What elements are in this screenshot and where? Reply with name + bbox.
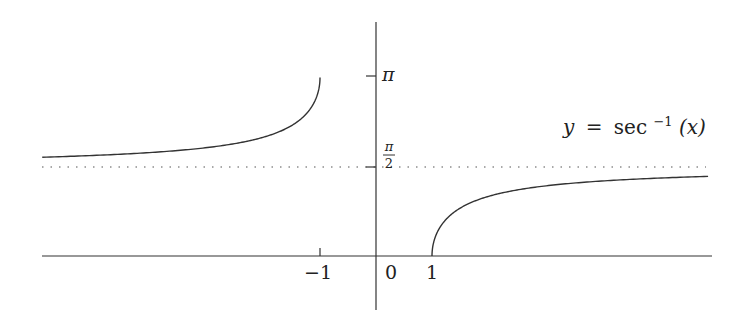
pi-half-numerator: π [384,139,394,154]
curve-right-branch [432,176,708,256]
label-arg: (x) [679,115,706,139]
label-fn: sec [614,115,647,139]
y-tick-label-pi: π [381,63,395,85]
y-tick-label-pi-half: π 2 [383,139,395,171]
curve-left-branch [42,78,320,158]
x-tick-label-minus-1: −1 [304,261,332,283]
label-sup: −1 [653,114,672,129]
label-eq: = [586,115,603,139]
x-tick-label-0: 0 [385,261,397,283]
label-y: y [562,115,575,139]
arcsec-plot: −1 0 1 π π 2 y = sec −1 (x) [0,0,746,322]
function-label: y = sec −1 (x) [562,107,706,139]
x-tick-label-1: 1 [426,261,438,283]
pi-half-denominator: 2 [385,156,393,171]
svg-text:y = sec −1: y = sec −1 (x) [562,107,706,139]
